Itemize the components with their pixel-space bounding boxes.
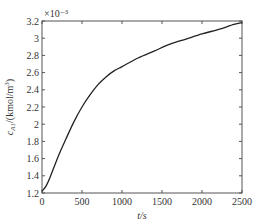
y-tick-label: 2 bbox=[34, 119, 39, 130]
x-tick-label: 0 bbox=[40, 196, 45, 207]
y-tick-label: 2.2 bbox=[27, 102, 40, 113]
y-tick-label: 2.8 bbox=[27, 50, 40, 61]
y-tick-label: 1.6 bbox=[27, 153, 40, 164]
x-tick-label: 500 bbox=[75, 196, 90, 207]
y-tick-label: 3.2 bbox=[27, 16, 40, 27]
y-tick-label: 1.2 bbox=[27, 188, 40, 199]
y-tick-label: 1.4 bbox=[27, 170, 40, 181]
plot-frame bbox=[42, 21, 242, 193]
x-tick-label: 1500 bbox=[152, 196, 172, 207]
x-axis-label: t/s bbox=[137, 210, 147, 221]
line-chart: 050010001500200025001.21.41.61.822.22.42… bbox=[0, 0, 264, 222]
y-tick-label: 3 bbox=[34, 33, 39, 44]
x-tick-label: 2500 bbox=[232, 196, 252, 207]
y-tick-label: 1.8 bbox=[27, 136, 40, 147]
x-tick-label: 1000 bbox=[112, 196, 132, 207]
y-tick-label: 2.4 bbox=[27, 84, 40, 95]
y-multiplier: ×10⁻³ bbox=[44, 8, 68, 19]
y-tick-label: 2.6 bbox=[27, 67, 40, 78]
data-series-line bbox=[42, 23, 242, 192]
y-axis-label: cA1/(kmol/m3) bbox=[3, 79, 17, 135]
x-tick-label: 2000 bbox=[192, 196, 212, 207]
